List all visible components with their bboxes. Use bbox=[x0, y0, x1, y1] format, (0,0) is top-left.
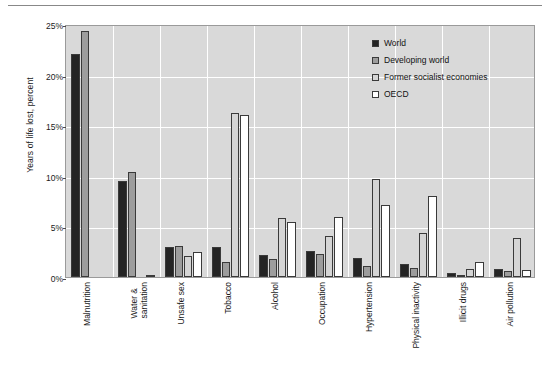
bar bbox=[381, 205, 390, 277]
bar bbox=[175, 246, 184, 277]
bar bbox=[504, 271, 513, 277]
bar bbox=[240, 115, 249, 277]
bar bbox=[522, 270, 531, 277]
x-axis-tick-label: Unsafe sex bbox=[177, 282, 187, 325]
bar bbox=[410, 268, 419, 277]
bar bbox=[231, 113, 240, 277]
bar bbox=[146, 275, 155, 277]
legend-swatch-icon bbox=[372, 57, 379, 64]
bar bbox=[278, 218, 287, 277]
bar-group bbox=[113, 26, 160, 277]
x-axis-tick-label: Malnutrition bbox=[83, 282, 93, 326]
bar-group bbox=[489, 26, 536, 277]
bar bbox=[128, 172, 137, 277]
bar bbox=[259, 255, 268, 277]
y-axis-tick-label: 5% bbox=[51, 223, 63, 233]
bar bbox=[457, 275, 466, 277]
bar bbox=[353, 258, 362, 277]
bar bbox=[334, 217, 343, 277]
x-axis-tick-label: Hypertension bbox=[365, 282, 375, 332]
legend-swatch-icon bbox=[372, 40, 379, 47]
y-axis-tick-mark bbox=[63, 279, 66, 280]
bar bbox=[306, 251, 315, 277]
legend-item: OECD bbox=[372, 89, 487, 99]
bar bbox=[81, 31, 90, 277]
legend-item: World bbox=[372, 38, 487, 48]
bar bbox=[316, 254, 325, 277]
bar bbox=[269, 259, 278, 277]
legend-label: World bbox=[384, 38, 406, 48]
y-axis-tick-label: 15% bbox=[46, 122, 63, 132]
legend-label: Former socialist economies bbox=[384, 72, 487, 82]
legend-swatch-icon bbox=[372, 91, 379, 98]
legend-label: OECD bbox=[384, 89, 409, 99]
chart-figure: Years of life lost, percent 0%5%10%15%20… bbox=[0, 0, 550, 385]
x-axis-tick-label: Air pollution bbox=[506, 282, 516, 326]
bar bbox=[222, 262, 231, 277]
legend-label: Developing world bbox=[384, 55, 449, 65]
bar bbox=[165, 247, 174, 277]
y-axis-title: Years of life lost, percent bbox=[25, 35, 35, 215]
bar bbox=[193, 252, 202, 277]
bar bbox=[475, 262, 484, 277]
bar-group bbox=[160, 26, 207, 277]
x-axis-tick-label: Physical inactivity bbox=[412, 282, 422, 349]
bar bbox=[447, 273, 456, 277]
y-axis-tick-label: 10% bbox=[46, 173, 63, 183]
bar bbox=[372, 179, 381, 277]
y-axis-tick-label: 25% bbox=[46, 21, 63, 31]
bar bbox=[184, 256, 193, 277]
bar bbox=[212, 247, 221, 277]
legend-item: Former socialist economies bbox=[372, 72, 487, 82]
x-axis-tick-label: Alcohol bbox=[271, 282, 281, 310]
legend-item: Developing world bbox=[372, 55, 487, 65]
x-axis-labels: MalnutritionWater & sanitationUnsafe sex… bbox=[65, 282, 535, 382]
y-axis-tick-label: 0% bbox=[51, 274, 63, 284]
bar bbox=[400, 264, 409, 277]
legend-swatch-icon bbox=[372, 74, 379, 81]
bar bbox=[118, 181, 127, 277]
bar bbox=[287, 222, 296, 277]
x-axis-tick-label: Water & sanitation bbox=[130, 282, 150, 318]
bar bbox=[325, 236, 334, 277]
bar bbox=[513, 238, 522, 277]
bar bbox=[419, 233, 428, 277]
bar-group bbox=[66, 26, 113, 277]
y-axis-tick-label: 20% bbox=[46, 72, 63, 82]
bar-group bbox=[207, 26, 254, 277]
bar bbox=[71, 54, 80, 277]
top-divider-rule bbox=[8, 5, 542, 6]
bar-group bbox=[254, 26, 301, 277]
x-axis-tick-label: Tobacco bbox=[224, 282, 234, 314]
chart-legend: WorldDeveloping worldFormer socialist ec… bbox=[372, 38, 487, 99]
bar bbox=[494, 269, 503, 277]
bar-group bbox=[301, 26, 348, 277]
x-axis-tick-label: Occupation bbox=[318, 282, 328, 325]
x-axis-tick-label: Illicit drugs bbox=[459, 282, 469, 322]
bar bbox=[363, 266, 372, 277]
bar bbox=[466, 269, 475, 277]
bar bbox=[428, 196, 437, 277]
